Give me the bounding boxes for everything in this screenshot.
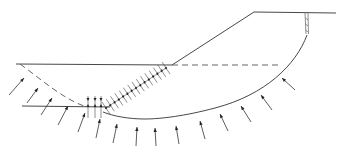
pore-pressure-arrow bbox=[78, 113, 85, 132]
slope-stability-diagram bbox=[0, 0, 342, 154]
pore-pressure-arrow bbox=[9, 78, 24, 95]
pore-pressure-arrow bbox=[241, 106, 251, 122]
pore-pressure-arrow bbox=[200, 121, 205, 139]
pore-pressure-arrow bbox=[27, 88, 38, 103]
pore-pressure-arrow bbox=[113, 124, 118, 143]
pore-pressure-arrow bbox=[175, 126, 179, 144]
pore-pressure-arrow bbox=[261, 95, 272, 110]
pore-pressure-arrow bbox=[96, 119, 101, 138]
pore-pressure-arrow bbox=[220, 114, 228, 131]
vertical-drains bbox=[87, 96, 103, 118]
pore-pressure-arrow bbox=[282, 78, 295, 90]
pore-pressure-arrow bbox=[58, 106, 68, 125]
upper-ground-line bbox=[16, 64, 172, 65]
hatched-drain-line bbox=[102, 62, 170, 114]
tension-crack bbox=[305, 13, 309, 34]
lower-ground-line bbox=[22, 106, 110, 107]
slip-surface-arc bbox=[103, 35, 307, 119]
crest-line bbox=[254, 12, 336, 13]
pore-pressure-arrow bbox=[135, 127, 138, 146]
slope-face-line bbox=[172, 12, 254, 65]
pore-pressure-arrow bbox=[154, 128, 157, 146]
